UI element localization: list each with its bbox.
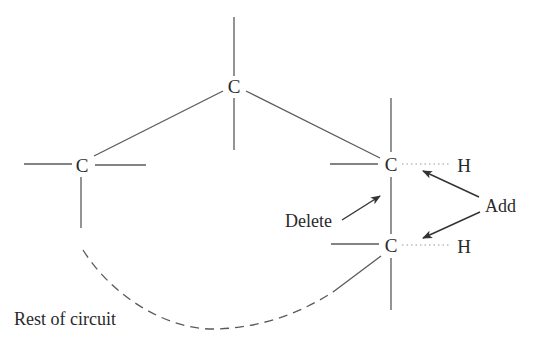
add-label: Add: [485, 196, 516, 216]
left-carbon-group: C: [24, 155, 146, 228]
top-carbon-group: C: [94, 17, 380, 158]
upper-hydrogen-atom: H: [457, 155, 471, 176]
lower-hydrogen-atom: H: [457, 236, 471, 257]
rest-of-circuit-solid-segment: [333, 256, 381, 292]
top-carbon-atom: C: [228, 76, 241, 97]
delete-label: Delete: [285, 211, 332, 231]
rest-of-circuit-dashed-curve: [83, 250, 333, 329]
right-lower-carbon-group: C H: [331, 235, 471, 310]
left-carbon-atom: C: [76, 155, 89, 176]
molecule-diagram: C C C H C H Delete Add Rest of circuit: [0, 0, 545, 350]
add-lower-arrow-icon: [423, 212, 480, 238]
top-to-right-bond: [246, 91, 380, 158]
right-upper-carbon-atom: C: [385, 154, 398, 175]
top-to-left-bond: [94, 91, 223, 156]
right-lower-carbon-atom: C: [385, 235, 398, 256]
rest-of-circuit-path: [83, 250, 381, 329]
rest-of-circuit-label: Rest of circuit: [14, 309, 116, 329]
delete-arrow-icon: [342, 196, 380, 220]
